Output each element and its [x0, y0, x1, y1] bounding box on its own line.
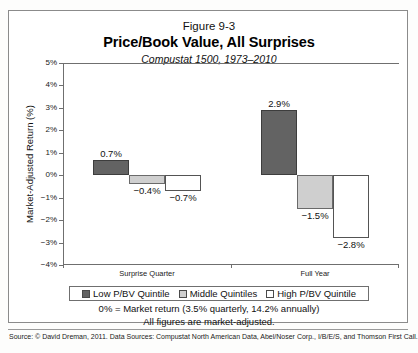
- footnote-line-1: 0% = Market return (3.5% quarterly, 14.2…: [9, 303, 409, 316]
- figure-screenshot: Figure 9-3 Price/Book Value, All Surpris…: [0, 0, 418, 353]
- y-tick-label: 4%: [45, 81, 57, 89]
- figure-frame: Figure 9-3 Price/Book Value, All Surpris…: [8, 10, 408, 323]
- bar[interactable]: [93, 160, 129, 176]
- legend-item-high[interactable]: High P/BV Quintile: [266, 288, 356, 299]
- footnote-line-2: All figures are market-adjusted.: [9, 316, 409, 329]
- footnotes: 0% = Market return (3.5% quarterly, 14.2…: [9, 303, 409, 328]
- legend-swatch-icon-high: [266, 290, 274, 298]
- y-tick: [59, 243, 63, 244]
- zero-baseline: [63, 63, 399, 64]
- y-tick: [59, 63, 63, 64]
- bar-value-label: −0.7%: [154, 192, 212, 203]
- bar-value-label: −2.8%: [322, 239, 380, 250]
- bar[interactable]: [165, 175, 201, 191]
- legend-label-middle: Middle Quintiles: [190, 288, 258, 299]
- y-axis-title-label: Market-Adjusted Return (%): [23, 63, 37, 265]
- bar[interactable]: [333, 175, 369, 238]
- figure-title: Price/Book Value, All Surprises: [9, 33, 409, 51]
- legend-label-high: High P/BV Quintile: [277, 288, 356, 299]
- category-tick: [63, 264, 64, 268]
- y-tick-label: 5%: [45, 59, 57, 67]
- y-tick-label: 3%: [45, 104, 57, 112]
- y-tick-label: −2%: [41, 216, 57, 224]
- category-label: Surprise Quarter: [63, 269, 231, 279]
- bar[interactable]: [297, 175, 333, 209]
- legend-item-low[interactable]: Low P/BV Quintile: [82, 288, 170, 299]
- y-tick-label: −1%: [41, 194, 57, 202]
- category-label: Full Year: [231, 269, 399, 279]
- y-tick: [59, 220, 63, 221]
- y-tick-label: 0%: [45, 171, 57, 179]
- source-note: Source: © David Dreman, 2011. Data Sourc…: [9, 332, 414, 341]
- y-tick: [59, 108, 63, 109]
- y-tick-label: 2%: [45, 126, 57, 134]
- y-tick: [59, 130, 63, 131]
- y-tick: [59, 198, 63, 199]
- category-tick: [231, 264, 232, 268]
- source-divider: [8, 329, 408, 330]
- category-tick: [398, 264, 399, 268]
- legend-swatch-icon-low: [82, 290, 90, 298]
- bar[interactable]: [129, 175, 165, 184]
- legend-swatch-icon-middle: [179, 290, 187, 298]
- y-tick: [59, 85, 63, 86]
- y-tick-label: −3%: [41, 239, 57, 247]
- y-tick: [59, 175, 63, 176]
- legend-label-low: Low P/BV Quintile: [93, 288, 170, 299]
- y-axis-title: Market-Adjusted Return (%): [23, 63, 37, 265]
- bar-value-label: 0.7%: [82, 148, 140, 159]
- y-tick-label: 1%: [45, 149, 57, 157]
- y-tick-label: −4%: [41, 261, 57, 269]
- y-tick: [59, 153, 63, 154]
- legend-item-middle[interactable]: Middle Quintiles: [179, 288, 258, 299]
- y-axis-line: [63, 63, 64, 265]
- plot-area: 5%4%3%2%1%0%−1%−2%−3%−4% 0.7%−0.4%−0.7%2…: [63, 63, 399, 265]
- figure-number: Figure 9-3: [9, 19, 409, 33]
- chart-legend: Low P/BV Quintile Middle Quintiles High …: [69, 286, 369, 301]
- bar-value-label: 2.9%: [250, 98, 308, 109]
- title-block: Figure 9-3 Price/Book Value, All Surpris…: [9, 19, 409, 66]
- bar[interactable]: [261, 110, 297, 175]
